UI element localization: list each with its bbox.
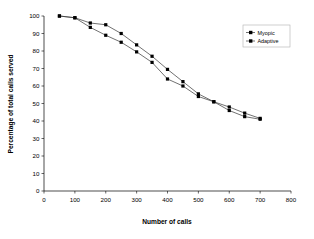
- data-point-marker: [89, 21, 92, 24]
- x-tick-label: 200: [101, 196, 112, 203]
- data-point-marker: [135, 43, 138, 46]
- series-line-myopic: [59, 16, 260, 118]
- data-point-marker: [166, 68, 169, 71]
- data-point-marker: [228, 105, 231, 108]
- line-chart: 0102030405060708090100 01002003004005006…: [0, 0, 314, 239]
- x-tick-label: 700: [255, 196, 266, 203]
- data-point-marker: [181, 84, 184, 87]
- data-point-marker: [228, 109, 231, 112]
- y-tick-label: 60: [33, 82, 40, 89]
- x-tick-label: 800: [286, 196, 297, 203]
- legend-label-myopic: Myopic: [258, 30, 275, 36]
- x-tick-label: 500: [193, 196, 204, 203]
- x-tick-label: 600: [224, 196, 235, 203]
- y-axis-title: Percentage of total calls served: [7, 55, 15, 154]
- y-axis-ticks: 0102030405060708090100: [29, 12, 44, 194]
- data-point-marker: [104, 34, 107, 37]
- data-point-marker: [243, 112, 246, 115]
- x-axis-title: Number of calls: [142, 218, 192, 225]
- chart-legend: Myopic Adaptive: [243, 25, 290, 47]
- chart-figure: 0102030405060708090100 01002003004005006…: [0, 0, 314, 239]
- data-point-marker: [197, 95, 200, 98]
- y-tick-label: 10: [33, 170, 40, 177]
- data-point-marker: [89, 26, 92, 29]
- y-tick-label: 0: [36, 187, 40, 194]
- data-point-marker: [120, 41, 123, 44]
- data-point-marker: [243, 115, 246, 118]
- data-point-marker: [104, 23, 107, 26]
- y-tick-label: 90: [33, 30, 40, 37]
- data-point-marker: [135, 50, 138, 53]
- data-point-marker: [150, 55, 153, 58]
- legend-label-adaptive: Adaptive: [258, 38, 279, 44]
- legend-square-marker-myopic: [249, 31, 252, 34]
- y-tick-label: 50: [33, 100, 40, 107]
- data-point-marker: [150, 61, 153, 64]
- data-point-marker: [181, 80, 184, 83]
- y-tick-label: 20: [33, 152, 40, 159]
- data-point-marker: [212, 100, 215, 103]
- y-tick-label: 40: [33, 117, 40, 124]
- series-line-adaptive: [59, 16, 260, 119]
- x-tick-label: 300: [131, 196, 142, 203]
- y-tick-label: 30: [33, 135, 40, 142]
- data-point-marker: [73, 16, 76, 19]
- data-point-marker: [120, 32, 123, 35]
- x-axis-ticks: 0100200300400500600700800: [42, 191, 296, 203]
- x-tick-label: 100: [70, 196, 81, 203]
- y-tick-label: 80: [33, 47, 40, 54]
- x-tick-label: 0: [42, 196, 46, 203]
- x-tick-label: 400: [162, 196, 173, 203]
- data-series-group: [58, 14, 262, 120]
- y-tick-label: 70: [33, 65, 40, 72]
- data-point-marker: [58, 14, 61, 17]
- y-tick-label: 100: [29, 12, 40, 19]
- data-point-marker: [259, 118, 262, 121]
- series-adaptive: [58, 14, 262, 120]
- legend-square-marker-adaptive: [249, 39, 252, 42]
- data-point-marker: [166, 77, 169, 80]
- series-myopic: [58, 14, 262, 120]
